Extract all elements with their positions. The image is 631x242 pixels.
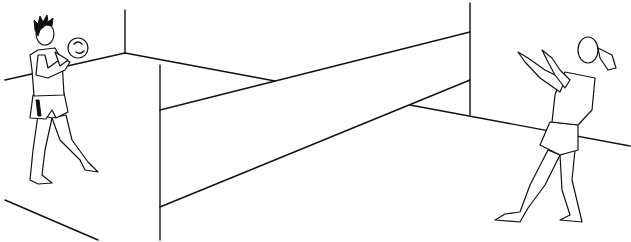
left-child-boy xyxy=(30,15,98,184)
volleyball-illustration xyxy=(0,0,631,242)
net xyxy=(160,3,470,240)
volleyball xyxy=(68,38,88,58)
room-lines xyxy=(5,10,630,240)
right-child-girl xyxy=(495,37,616,222)
